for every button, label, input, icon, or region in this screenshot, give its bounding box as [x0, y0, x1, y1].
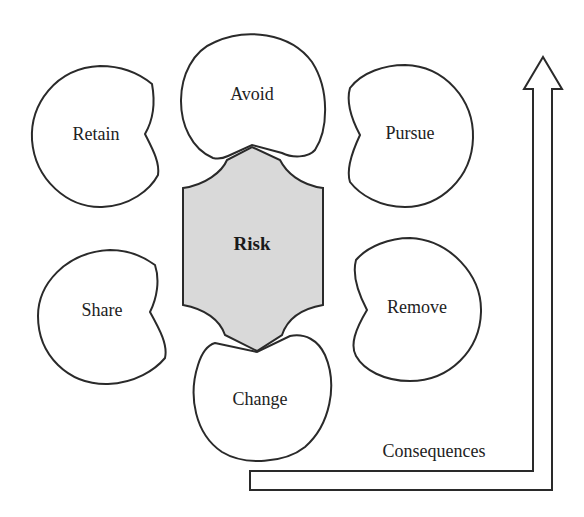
- option-share: Share: [38, 250, 166, 384]
- share-label: Share: [82, 300, 123, 320]
- risk-node: Risk: [183, 147, 323, 351]
- option-retain: Retain: [32, 66, 158, 207]
- pursue-label: Pursue: [386, 123, 435, 143]
- avoid-label: Avoid: [230, 84, 274, 104]
- option-avoid: Avoid: [181, 34, 325, 158]
- option-change: Change: [194, 335, 331, 461]
- consequences-label: Consequences: [383, 441, 486, 461]
- risk-treatment-diagram: Risk Avoid Retain Pursue Share Remove Ch…: [0, 0, 584, 517]
- risk-label: Risk: [234, 233, 271, 254]
- retain-label: Retain: [73, 124, 120, 144]
- option-remove: Remove: [353, 238, 481, 381]
- remove-label: Remove: [387, 297, 447, 317]
- option-pursue: Pursue: [349, 65, 473, 207]
- change-label: Change: [233, 389, 288, 409]
